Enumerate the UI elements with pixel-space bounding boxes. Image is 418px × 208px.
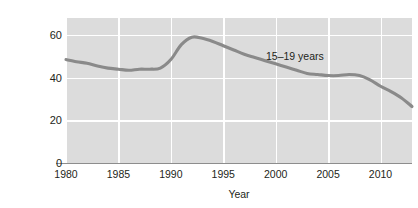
y-axis-tick-labels: 0204060 (36, 18, 62, 163)
y-axis-tick-label: 20 (36, 114, 62, 126)
plot-area (66, 18, 412, 163)
series-annotation-label: 15–19 years (266, 50, 324, 62)
x-axis-tick-label: 1985 (107, 168, 130, 180)
series-line-15-19-years (66, 37, 412, 107)
x-axis-line (56, 163, 412, 164)
x-axis-tick-label: 1995 (212, 168, 235, 180)
x-axis-tick-labels: 1980198519901995200020052010 (66, 168, 412, 182)
y-axis-tick-label: 40 (36, 72, 62, 84)
x-axis-tick-label: 1990 (159, 168, 182, 180)
x-axis-tick-label: 2005 (316, 168, 339, 180)
series-layer (66, 18, 412, 163)
y-axis-tick-label: 60 (36, 29, 62, 41)
x-axis-tick-label: 2000 (264, 168, 287, 180)
chart-container: Birth rate per 1,000 15- to 19-year-old … (0, 0, 418, 208)
x-axis-title: Year (66, 188, 412, 200)
x-axis-tick-label: 1980 (54, 168, 77, 180)
x-axis-tick-label: 2010 (369, 168, 392, 180)
